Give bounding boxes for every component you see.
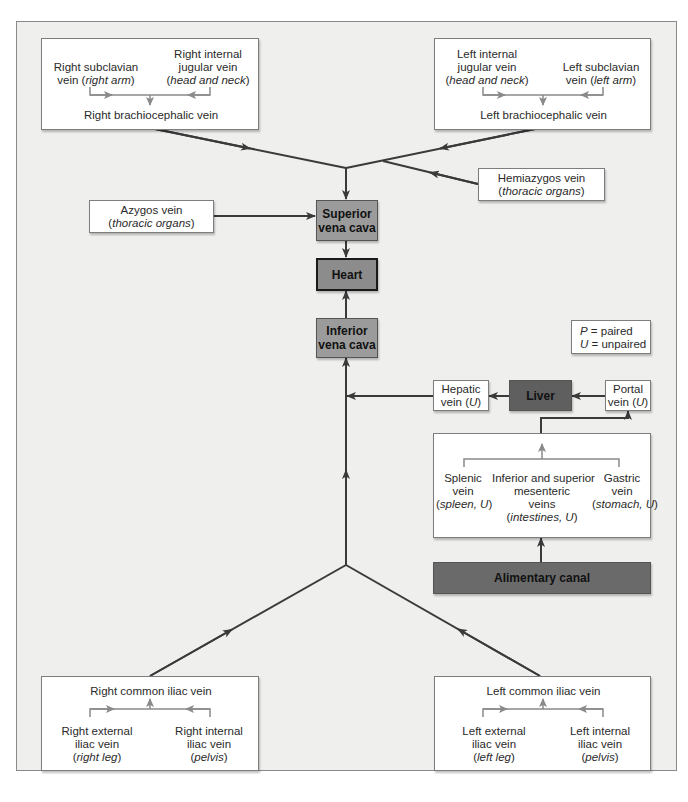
legend-box: P = paired U = unpaired: [571, 320, 651, 354]
azygos-label: Azygos vein: [120, 204, 182, 216]
hemiazygos-label: Hemiazygos vein: [498, 172, 586, 184]
right-brachiocephalic-label: Right brachiocephalic vein: [42, 109, 260, 122]
merge-arrows: [435, 677, 652, 717]
left-external-iliac-label: Left external: [462, 725, 525, 737]
right-external-iliac-label: Right external: [62, 725, 133, 737]
gastric-vein-label: Gastric: [604, 472, 640, 484]
liver-box: Liver: [509, 380, 572, 411]
portal-vein-box: Portal vein (U): [605, 380, 651, 411]
gi-veins-box: Splenic vein (spleen, U) Inferior and su…: [433, 433, 651, 538]
right-internal-iliac-label: Right internal: [175, 725, 243, 737]
alimentary-canal-box: Alimentary canal: [433, 562, 651, 594]
left-internal-iliac-label: Left internal: [570, 725, 630, 737]
hepatic-vein-box: Hepatic vein (U): [433, 380, 489, 411]
right-common-iliac-box: Right common iliac vein Right external i…: [41, 676, 259, 771]
superior-vena-cava-box: Superiorvena cava: [316, 200, 378, 241]
figure-caption-cropped: [16, 790, 316, 800]
azygos-box: Azygos vein (thoracic organs): [89, 200, 214, 233]
left-brachiocephalic-label: Left brachiocephalic vein: [435, 109, 652, 122]
left-brachiocephalic-box: Left internal jugular vein (head and nec…: [434, 38, 651, 130]
merge-arrows: [434, 434, 652, 474]
merge-arrows: [42, 677, 260, 717]
mesenteric-veins-label: Inferior and superior: [492, 472, 595, 484]
left-common-iliac-box: Left common iliac vein Left external ili…: [434, 676, 651, 771]
right-brachiocephalic-box: Right subclavian vein (right arm) Right …: [41, 38, 259, 130]
hemiazygos-box: Hemiazygos vein (thoracic organs): [478, 168, 605, 201]
inferior-vena-cava-box: Inferiorvena cava: [316, 318, 378, 358]
heart-box: Heart: [316, 258, 378, 291]
splenic-vein-label: Splenic: [444, 472, 482, 484]
